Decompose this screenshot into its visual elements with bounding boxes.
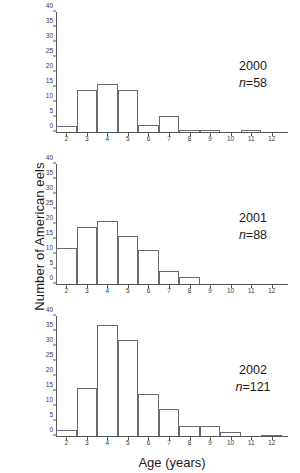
x-tick-mark: [169, 285, 170, 288]
x-tick-mark: [169, 437, 170, 440]
histogram-bar: [97, 84, 118, 132]
x-tick-mark: [231, 285, 232, 288]
x-tick-mark: [66, 437, 67, 440]
x-tick-mark: [107, 437, 108, 440]
histogram-bar: [159, 271, 180, 285]
panel-2001: 0510152025303540234567891011122001n=88: [32, 158, 294, 305]
y-tick-mark: [53, 223, 56, 224]
y-tick-label: 15: [46, 229, 56, 236]
histogram-bar: [118, 236, 139, 284]
y-tick-mark: [53, 375, 56, 376]
y-tick-label: 10: [46, 396, 56, 403]
x-tick-mark: [169, 133, 170, 136]
sample-size-symbol: n: [239, 76, 246, 90]
y-tick-mark: [53, 101, 56, 102]
y-tick-mark: [53, 360, 56, 361]
histogram-bar: [200, 426, 221, 437]
y-tick-label: 30: [46, 184, 56, 191]
x-axis-title: Age (years): [26, 455, 300, 470]
panel-annotation: 2001n=88: [218, 210, 288, 244]
x-tick-mark: [190, 133, 191, 136]
sample-size-value: =121: [242, 380, 270, 394]
y-tick-label: 20: [46, 366, 56, 373]
y-tick-mark: [53, 390, 56, 391]
x-tick-mark: [272, 133, 273, 136]
panel-annotation: 2000n=58: [218, 58, 288, 92]
y-tick-label: 5: [49, 411, 56, 418]
y-tick-label: 15: [46, 77, 56, 84]
x-tick-mark: [251, 437, 252, 440]
panel-2002: 0510152025303540234567891011122002n=121: [32, 310, 294, 457]
panel-year-label: 2002: [218, 362, 288, 379]
y-tick-label: 40: [46, 2, 56, 9]
histogram-bar: [56, 248, 77, 284]
x-tick-mark: [87, 437, 88, 440]
y-tick-mark: [53, 11, 56, 12]
y-tick-label: 15: [46, 381, 56, 388]
y-tick-label: 30: [46, 32, 56, 39]
y-tick-label: 25: [46, 351, 56, 358]
y-tick-label: 25: [46, 47, 56, 54]
y-tick-mark: [53, 178, 56, 179]
panel-year-label: 2001: [218, 210, 288, 227]
y-tick-label: 10: [46, 244, 56, 251]
x-tick-mark: [148, 133, 149, 136]
histogram-bar: [179, 426, 200, 437]
y-tick-label: 35: [46, 321, 56, 328]
x-tick-mark: [272, 285, 273, 288]
histogram-bar: [159, 116, 180, 133]
x-tick-mark: [210, 133, 211, 136]
y-tick-mark: [53, 208, 56, 209]
y-tick-label: 20: [46, 62, 56, 69]
y-tick-mark: [53, 41, 56, 42]
y-tick-mark: [53, 86, 56, 87]
sample-size-value: =88: [246, 228, 267, 242]
histogram-bar: [77, 90, 98, 132]
x-tick-mark: [128, 285, 129, 288]
x-tick-mark: [210, 285, 211, 288]
panel-sample-size-label: n=121: [218, 379, 288, 396]
x-tick-mark: [272, 437, 273, 440]
y-tick-label: 0: [49, 274, 56, 281]
histogram-bar: [159, 409, 180, 436]
y-tick-mark: [53, 56, 56, 57]
y-tick-mark: [53, 238, 56, 239]
x-tick-mark: [66, 133, 67, 136]
x-tick-mark: [210, 437, 211, 440]
y-tick-label: 5: [49, 259, 56, 266]
histogram-bar: [77, 227, 98, 284]
y-tick-label: 10: [46, 92, 56, 99]
sample-size-value: =58: [246, 76, 267, 90]
histogram-bar: [118, 340, 139, 436]
y-tick-mark: [53, 163, 56, 164]
y-tick-mark: [53, 71, 56, 72]
histogram-bar: [138, 394, 159, 436]
histogram-figure: Number of American eels 0510152025303540…: [0, 0, 300, 473]
y-tick-mark: [53, 420, 56, 421]
y-tick-label: 35: [46, 169, 56, 176]
x-tick-mark: [190, 285, 191, 288]
panel-annotation: 2002n=121: [218, 362, 288, 396]
y-tick-label: 0: [49, 122, 56, 129]
y-tick-label: 40: [46, 154, 56, 161]
y-tick-label: 30: [46, 336, 56, 343]
y-tick-mark: [53, 193, 56, 194]
x-tick-mark: [66, 285, 67, 288]
panel-2000: 0510152025303540234567891011122000n=58: [32, 6, 294, 153]
y-tick-mark: [53, 26, 56, 27]
y-tick-label: 20: [46, 214, 56, 221]
x-tick-mark: [128, 133, 129, 136]
x-tick-mark: [107, 285, 108, 288]
y-tick-label: 0: [49, 426, 56, 433]
histogram-bar: [138, 125, 159, 133]
x-tick-mark: [87, 133, 88, 136]
y-tick-label: 40: [46, 306, 56, 313]
x-tick-mark: [148, 285, 149, 288]
y-tick-label: 35: [46, 17, 56, 24]
y-tick-label: 25: [46, 199, 56, 206]
panel-sample-size-label: n=58: [218, 75, 288, 92]
y-tick-mark: [53, 330, 56, 331]
x-tick-mark: [251, 285, 252, 288]
panel-year-label: 2000: [218, 58, 288, 75]
y-tick-mark: [53, 315, 56, 316]
